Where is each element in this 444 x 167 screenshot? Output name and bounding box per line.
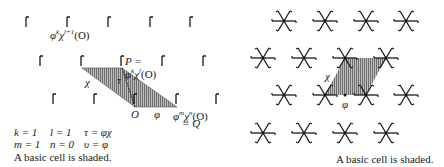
basic-cell-right [325,58,386,95]
right-caption: A basic cell is shaded. [336,153,433,165]
label-phi-right: φ [342,99,348,110]
label-origin: O [131,109,139,120]
motif-row-2 [40,56,206,66]
param-m: m = 1 [14,138,50,150]
star-row-4 [251,123,398,143]
param-k: k = 1 [14,126,50,138]
lattice-parameters: k = 1 l = 1 τ = φχ m = 1 n = 0 υ = φ [14,126,112,150]
right-lattice [251,11,418,143]
label-Q: = Q [182,118,200,129]
label-P-value: φkχl(O) [125,66,156,80]
motif-row-1 [26,17,193,27]
label-tau: τ [117,75,121,86]
param-n: n = 0 [50,138,84,150]
param-tau: τ = φχ [84,126,112,138]
left-caption: A basic cell is shaded. [14,151,111,163]
label-phi-left: φ [154,109,160,120]
star-row-1 [272,11,418,31]
param-l: l = 1 [50,126,84,138]
label-top-point: φkχl+1(O) [50,27,90,41]
label-chi-right: χ [325,71,330,82]
param-v: υ = φ [84,138,108,150]
label-chi-left: χ [85,77,90,88]
